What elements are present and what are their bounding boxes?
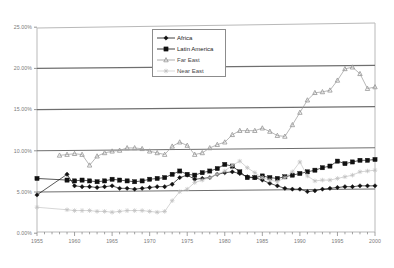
gridline: [37, 107, 375, 110]
data-point-star: [275, 179, 280, 184]
data-point-star: [80, 208, 85, 213]
series-far-east: [57, 65, 377, 167]
legend-item-latin-america[interactable]: Latin America: [153, 43, 225, 54]
data-point-diamond: [373, 184, 377, 188]
data-point-star: [132, 208, 137, 213]
data-point-square: [208, 169, 212, 173]
data-point-diamond: [110, 184, 114, 188]
data-point-square: [328, 164, 332, 168]
x-tick-label: 1985: [256, 238, 268, 244]
data-point-star: [72, 208, 77, 213]
y-tick-label: 20.00%: [0, 65, 32, 71]
data-point-diamond: [358, 184, 362, 188]
data-point-star: [200, 178, 205, 183]
data-point-square: [163, 176, 167, 180]
y-tick-label: 10.00%: [0, 148, 32, 154]
legend-label: Near East: [176, 68, 204, 74]
data-point-square: [185, 172, 189, 176]
data-point-diamond: [65, 172, 69, 176]
data-point-star: [298, 160, 303, 165]
data-point-square: [313, 168, 317, 172]
data-point-square: [358, 158, 362, 162]
data-point-diamond: [147, 185, 151, 189]
data-point-square: [87, 179, 91, 183]
x-tick-label: 1975: [181, 238, 193, 244]
data-point-star: [147, 209, 152, 214]
legend-label: Far East: [176, 57, 200, 63]
data-point-star: [102, 209, 107, 214]
data-point-star: [313, 179, 318, 184]
data-point-diamond: [164, 35, 168, 39]
y-tick-label: 0.00%: [0, 230, 32, 236]
data-point-diamond: [365, 184, 369, 188]
square-marker-icon: [156, 44, 176, 54]
data-point-star: [192, 180, 197, 185]
data-point-square: [148, 177, 152, 181]
data-point-star: [170, 198, 175, 203]
data-point-square: [215, 166, 219, 170]
data-point-square: [65, 178, 69, 182]
data-point-star: [207, 175, 212, 180]
data-point-square: [298, 171, 302, 175]
data-point-star: [162, 209, 167, 214]
data-point-star: [238, 159, 243, 164]
line-chart: 0.00%5.00%10.00%15.00%20.00%25.00% 19551…: [0, 0, 394, 268]
x-tick-label: 1970: [144, 238, 156, 244]
triangle-marker-icon: [156, 55, 176, 65]
legend-label: Africa: [176, 35, 192, 41]
data-point-square: [365, 158, 369, 162]
data-point-square: [95, 180, 99, 184]
data-point-star: [260, 175, 265, 180]
data-point-star: [358, 170, 363, 175]
data-point-diamond: [117, 186, 121, 190]
data-point-star: [164, 68, 169, 73]
data-point-square: [350, 160, 354, 164]
data-point-star: [343, 174, 348, 179]
data-point-diamond: [140, 186, 144, 190]
data-point-star: [373, 168, 378, 173]
data-point-diamond: [350, 184, 354, 188]
data-point-square: [80, 178, 84, 182]
x-tick-label: 1990: [294, 238, 306, 244]
legend-item-africa[interactable]: Africa: [153, 32, 225, 43]
data-point-star: [215, 172, 220, 177]
x-tick-label: 1995: [331, 238, 343, 244]
data-point-square: [170, 172, 174, 176]
data-point-diamond: [95, 185, 99, 189]
legend-item-near-east[interactable]: Near East: [153, 65, 225, 76]
data-point-diamond: [125, 186, 129, 190]
data-point-star: [185, 187, 190, 192]
data-point-star: [110, 210, 115, 215]
legend-item-far-east[interactable]: Far East: [153, 54, 225, 65]
data-point-square: [35, 176, 39, 180]
y-tick-label: 5.00%: [0, 189, 32, 195]
data-point-star: [125, 208, 130, 213]
data-point-star: [230, 163, 235, 168]
data-point-star: [95, 209, 100, 214]
data-point-diamond: [87, 184, 91, 188]
data-point-square: [140, 179, 144, 183]
data-point-star: [222, 169, 227, 174]
data-point-star: [140, 208, 145, 213]
legend-label: Latin America: [176, 46, 213, 52]
data-point-square: [253, 176, 257, 180]
data-point-diamond: [35, 193, 39, 197]
data-point-square: [335, 159, 339, 163]
data-point-square: [373, 157, 377, 161]
data-point-square: [125, 179, 129, 183]
data-point-diamond: [102, 184, 106, 188]
data-point-star: [335, 176, 340, 181]
data-point-star: [283, 175, 288, 180]
data-point-square: [320, 166, 324, 170]
data-point-diamond: [343, 184, 347, 188]
x-tick-label: 1965: [106, 238, 118, 244]
data-point-star: [350, 173, 355, 178]
data-point-star: [177, 189, 182, 194]
data-point-star: [365, 169, 370, 174]
data-point-square: [155, 176, 159, 180]
x-tick-label: 1980: [219, 238, 231, 244]
data-point-diamond: [290, 187, 294, 191]
data-point-square: [133, 180, 137, 184]
data-point-square: [178, 169, 182, 173]
y-tick-label: 25.00%: [0, 24, 32, 30]
